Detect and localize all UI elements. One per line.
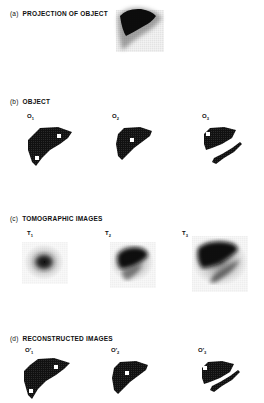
reconstructed-o2-image — [108, 358, 152, 402]
panel-b-label: (b)OBJECT — [10, 98, 50, 105]
reconstructed-o3-image — [198, 358, 244, 403]
panel-a-letter: (a) — [10, 10, 19, 17]
label-t2: T2 — [105, 230, 111, 238]
tomographic-t1-image — [20, 240, 70, 286]
panel-b-letter: (b) — [10, 98, 19, 105]
tomographic-t2-image — [108, 240, 158, 290]
object-o2-image — [112, 124, 156, 168]
projection-image — [112, 4, 168, 54]
label-o1-prime: O'1 — [25, 347, 33, 355]
panel-d-title: RECONSTRUCTED IMAGES — [23, 335, 113, 342]
panel-d-label: (d)RECONSTRUCTED IMAGES — [10, 335, 113, 342]
object-o3-image — [200, 124, 246, 170]
label-o1: O1 — [27, 113, 34, 121]
label-o3: O3 — [202, 113, 209, 121]
panel-b-title: OBJECT — [23, 98, 51, 105]
label-o3-prime: O'3 — [198, 347, 206, 355]
label-o2: O2 — [112, 113, 119, 121]
panel-a-label: (a)PROJECTION OF OBJECT — [10, 10, 108, 17]
tomographic-t3-image — [190, 234, 250, 294]
panel-a-title: PROJECTION OF OBJECT — [23, 10, 108, 17]
label-o2-prime: O'2 — [111, 347, 119, 355]
label-t1: T1 — [27, 230, 33, 238]
reconstructed-o1-image — [20, 355, 72, 403]
panel-c-label: (c)TOMOGRAPHIC IMAGES — [10, 215, 103, 222]
panel-c-title: TOMOGRAPHIC IMAGES — [22, 215, 102, 222]
panel-c-letter: (c) — [10, 215, 18, 222]
label-t3: T3 — [182, 230, 188, 238]
object-o1-image — [24, 122, 74, 172]
panel-d-letter: (d) — [10, 335, 19, 342]
